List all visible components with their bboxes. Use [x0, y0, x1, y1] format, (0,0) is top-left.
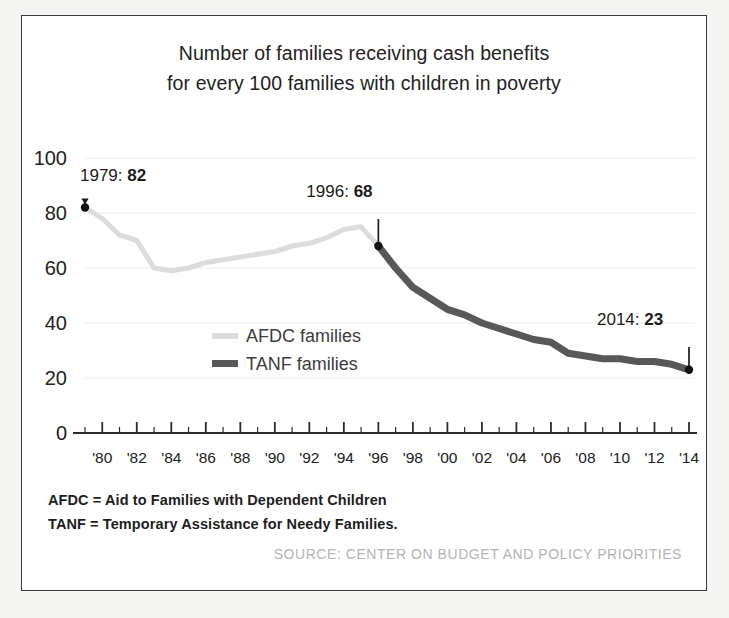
x-axis-tick-label: '04: [506, 449, 526, 467]
data-point-marker: [374, 242, 382, 250]
footnote-afdc: AFDC = Aid to Families with Dependent Ch…: [48, 492, 387, 508]
x-axis-tick-label: '90: [265, 449, 285, 467]
y-axis-tick-label: 0: [21, 422, 67, 445]
x-axis-tick-label: '06: [541, 449, 561, 467]
legend-swatch-tanf: [212, 360, 238, 367]
x-axis-tick-label: '00: [437, 449, 457, 467]
source-note: SOURCE: CENTER ON BUDGET AND POLICY PRIO…: [274, 546, 682, 562]
x-axis-tick-label: '14: [679, 449, 699, 467]
x-axis-tick-label: '10: [610, 449, 630, 467]
x-axis-tick-label: '12: [644, 449, 664, 467]
x-axis-tick-label: '88: [230, 449, 250, 467]
y-axis-tick-label: 80: [21, 202, 67, 225]
y-axis-tick-label: 60: [21, 257, 67, 280]
x-axis-tick-label: '94: [334, 449, 354, 467]
annotation-2014: 2014: 23: [597, 310, 663, 330]
x-axis-tick-label: '02: [472, 449, 492, 467]
x-axis-tick-label: '92: [299, 449, 319, 467]
x-axis-tick-label: '82: [127, 449, 147, 467]
data-point-marker: [81, 203, 89, 211]
legend-item-afdc: AFDC families: [212, 326, 361, 347]
x-axis-tick-label: '86: [196, 449, 216, 467]
annotation-1979: 1979: 82: [80, 166, 146, 186]
annotation-1996: 1996: 68: [306, 182, 372, 202]
x-axis-tick-label: '98: [403, 449, 423, 467]
legend-label-afdc: AFDC families: [246, 326, 361, 346]
chart-frame: Number of families receiving cash benefi…: [21, 15, 707, 591]
x-axis-tick-label: '80: [92, 449, 112, 467]
y-axis-tick-label: 40: [21, 312, 67, 335]
x-axis-tick-label: '96: [368, 449, 388, 467]
x-axis-tick-label: '08: [575, 449, 595, 467]
y-axis-tick-label: 20: [21, 367, 67, 390]
legend-swatch-afdc: [212, 333, 238, 339]
legend-item-tanf: TANF families: [212, 354, 358, 375]
series-line-tanf: [378, 246, 689, 370]
data-point-marker: [685, 366, 693, 374]
legend-label-tanf: TANF families: [246, 354, 358, 374]
series-line-afdc: [85, 208, 378, 271]
chart-page: Number of families receiving cash benefi…: [0, 0, 729, 618]
footnote-tanf: TANF = Temporary Assistance for Needy Fa…: [48, 516, 398, 532]
x-axis-tick-label: '84: [161, 449, 181, 467]
y-axis-tick-label: 100: [21, 147, 67, 170]
